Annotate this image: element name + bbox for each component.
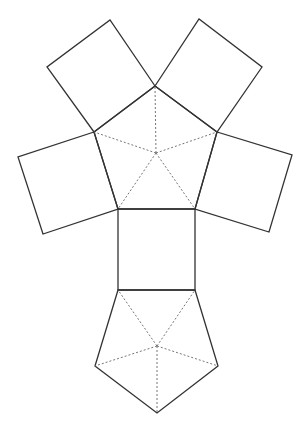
bottom-pentagon-dashed-spoke [157,346,218,366]
top-pentagon-dashed-spoke [94,132,156,153]
top-pentagon-dashed-spoke [156,153,195,209]
top-left-square [47,20,155,132]
top-right-square [155,19,262,132]
left-square [18,132,118,234]
diagram-container [0,0,307,434]
bottom-pentagon-dashed-spoke [157,290,195,346]
right-square [195,132,292,232]
bottom-pentagon-dashed-spoke [118,290,157,346]
bottom-pentagon-dashed-spoke [95,346,157,366]
top-pentagon-dashed-spoke [155,86,156,153]
center-square [118,209,195,290]
bottom-pentagon [95,290,218,413]
prism-net-diagram [0,0,307,434]
fold-lines [94,86,218,413]
top-pentagon-dashed-spoke [118,153,156,209]
top-pentagon-dashed-spoke [156,132,217,153]
